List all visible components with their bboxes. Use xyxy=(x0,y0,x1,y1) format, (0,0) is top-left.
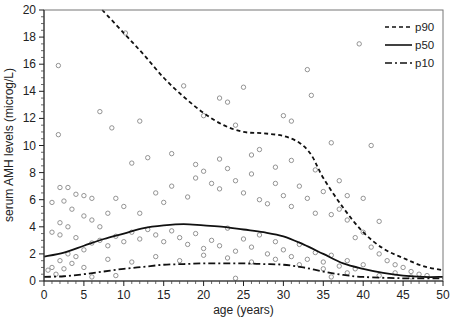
y-tick-label: 18 xyxy=(23,30,37,44)
y-tick-label: 14 xyxy=(23,84,37,98)
y-tick-label: 10 xyxy=(23,139,37,153)
x-tick-label: 40 xyxy=(357,288,371,302)
legend-label-p90: p90 xyxy=(415,21,434,33)
x-axis-title: age (years) xyxy=(213,303,274,317)
y-tick-label: 20 xyxy=(23,3,37,17)
legend-label-p50: p50 xyxy=(415,39,434,51)
x-tick-label: 10 xyxy=(117,288,131,302)
x-tick-label: 50 xyxy=(436,288,450,302)
y-tick-label: 6 xyxy=(29,193,36,207)
x-tick-label: 25 xyxy=(237,288,251,302)
y-tick-label: 2 xyxy=(29,247,36,261)
x-tick-label: 20 xyxy=(197,288,211,302)
x-tick-label: 0 xyxy=(41,288,48,302)
x-tick-label: 15 xyxy=(157,288,171,302)
x-tick-label: 45 xyxy=(396,288,410,302)
legend-label-p10: p10 xyxy=(415,57,434,69)
y-tick-label: 12 xyxy=(23,111,37,125)
x-tick-label: 5 xyxy=(81,288,88,302)
x-tick-label: 30 xyxy=(277,288,291,302)
y-tick-label: 0 xyxy=(29,274,36,288)
y-tick-label: 16 xyxy=(23,57,37,71)
y-axis-title: serum AMH levels (microg/L) xyxy=(2,68,16,222)
x-tick-label: 35 xyxy=(317,288,331,302)
y-tick-label: 4 xyxy=(29,220,36,234)
y-tick-label: 8 xyxy=(29,166,36,180)
chart: 05101520253035404550 02468101214161820 a… xyxy=(0,0,454,325)
